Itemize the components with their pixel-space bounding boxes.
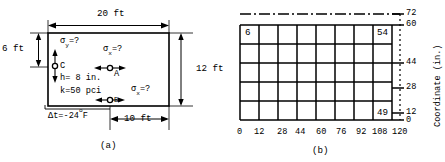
dim-label-bottom-offset: 10 ft — [124, 114, 152, 123]
dim-label-left-offset: 6 ft — [2, 44, 24, 53]
y-tick-label-72: 72 — [406, 9, 416, 18]
x-tick-label-28: 28 — [277, 128, 287, 137]
dim-arrow-bottom-left — [110, 116, 118, 122]
y-axis-title: Coordinate (in.) — [434, 44, 443, 127]
dim-arrow-left-top — [36, 33, 41, 40]
dim-arrow-right-top — [178, 33, 183, 40]
delta-t-unit: F — [83, 111, 88, 121]
stress-label-sigma-x-lower: σx=? — [131, 85, 150, 96]
panel-b-caption: (b) — [312, 145, 329, 156]
point-label-c: C — [60, 62, 65, 71]
property-temperature-change: Δt=-24oF — [48, 110, 88, 120]
figure-container: 20 ft 6 ft 12 ft 10 ft σy=? σx=? σx=? C … — [0, 0, 445, 162]
degree-icon: o — [79, 107, 83, 114]
stress-label-sigma-x-middle: σx=? — [103, 45, 122, 56]
dim-arrow-top-right — [161, 23, 169, 29]
node-label-bottom-right: 49 — [377, 108, 388, 117]
dim-arrow-right-bottom — [178, 99, 183, 106]
sigma-y-value: =? — [69, 36, 79, 46]
dim-label-right-height: 12 ft — [196, 64, 224, 73]
y-tick-label-44: 44 — [406, 58, 416, 67]
node-label-top-left: 6 — [245, 28, 251, 37]
node-label-top-right: 54 — [377, 28, 388, 37]
y-tick-label-60: 60 — [406, 20, 416, 29]
point-b-marker — [107, 97, 112, 102]
dim-arrow-top-left — [48, 23, 56, 29]
property-thickness: h= 8 in. — [60, 74, 101, 83]
point-a-arrow-right-head — [119, 65, 126, 70]
property-subgrade-modulus: k=50 pci — [60, 87, 101, 96]
point-a-arrow-left-head — [94, 65, 101, 70]
x-tick-label-92: 92 — [356, 128, 366, 137]
dim-arrow-left-bottom — [36, 60, 41, 67]
point-b-arrow-left-head — [95, 97, 102, 102]
point-a-marker — [107, 65, 112, 70]
x-tick-label-44: 44 — [295, 128, 305, 137]
delta-t-value: -24 — [63, 111, 78, 121]
sigma-x-mid-value: =? — [112, 44, 122, 54]
panel-b: 6 54 49 72 60 44 28 12 0 Coordinate (in.… — [222, 0, 445, 162]
point-c-arrow-up-head — [52, 49, 57, 56]
x-tick-label-0: 0 — [237, 128, 242, 137]
x-tick-label-120: 120 — [392, 128, 407, 137]
x-tick-label-108: 108 — [372, 128, 387, 137]
sigma-x-low-subscript: x — [136, 90, 140, 97]
panel-a-caption: (a) — [100, 140, 117, 151]
point-b-arrow-right-head — [118, 97, 125, 102]
y-tick-label-28: 28 — [406, 83, 416, 92]
point-c-arrow-down-head — [52, 76, 57, 83]
delta-t-symbol: Δt= — [48, 111, 63, 121]
point-label-a: A — [114, 70, 119, 79]
sigma-x-low-value: =? — [140, 84, 150, 94]
stress-label-sigma-y: σy=? — [60, 37, 79, 48]
y-tick-label-0: 0 — [406, 116, 411, 125]
point-c-marker — [52, 63, 57, 68]
dim-arrow-bottom-right — [161, 116, 169, 122]
dim-label-top-width: 20 ft — [97, 9, 125, 18]
x-tick-label-76: 76 — [336, 128, 346, 137]
sigma-x-mid-subscript: x — [108, 50, 112, 57]
x-tick-label-12: 12 — [254, 128, 264, 137]
panel-a: 20 ft 6 ft 12 ft 10 ft σy=? σx=? σx=? C … — [0, 0, 222, 162]
x-tick-label-60: 60 — [316, 128, 326, 137]
panel-a-drawing — [0, 0, 222, 162]
point-label-b: B — [114, 97, 118, 104]
sigma-y-subscript: y — [65, 42, 69, 49]
